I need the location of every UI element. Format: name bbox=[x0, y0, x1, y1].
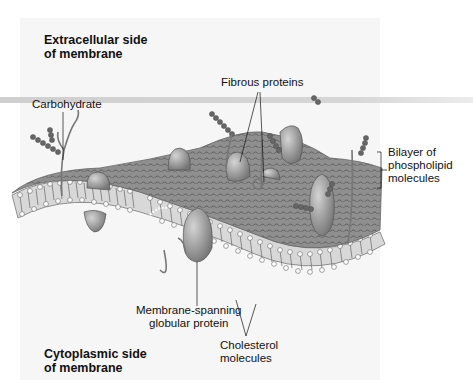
bilayer-line3: molecules bbox=[388, 172, 453, 185]
globular-line1: Membrane-spanning bbox=[136, 304, 241, 317]
carbohydrate-label: Carbohydrate bbox=[32, 98, 102, 111]
extracellular-side-label: Extracellular side of membrane bbox=[44, 33, 148, 61]
cytoplasmic-side-label: Cytoplasmic side of membrane bbox=[44, 347, 147, 375]
globular-line2: globular protein bbox=[136, 317, 241, 330]
cholesterol-line2: molecules bbox=[220, 352, 278, 365]
bilayer-line2: phospholipid bbox=[388, 159, 453, 172]
cholesterol-line1: Cholesterol bbox=[220, 339, 278, 352]
extracellular-line1: Extracellular side bbox=[44, 33, 148, 47]
bilayer-label: Bilayer of phospholipid molecules bbox=[388, 146, 453, 185]
bilayer-line1: Bilayer of bbox=[388, 146, 453, 159]
cytoplasmic-line2: of membrane bbox=[44, 361, 147, 375]
fibrous-proteins-label: Fibrous proteins bbox=[221, 76, 303, 89]
globular-protein-label: Membrane-spanning globular protein bbox=[136, 304, 241, 330]
cytoplasmic-line1: Cytoplasmic side bbox=[44, 347, 147, 361]
cholesterol-label: Cholesterol molecules bbox=[220, 339, 278, 365]
extracellular-line2: of membrane bbox=[44, 47, 148, 61]
